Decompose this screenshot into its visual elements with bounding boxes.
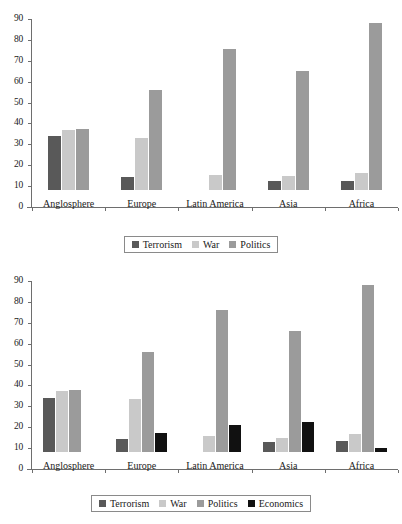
bar-group <box>325 264 398 452</box>
x-tick-mark <box>32 208 33 211</box>
x-axis-labels-top: AnglosphereEuropeLatin AmericaAsiaAfrica <box>32 198 398 210</box>
figure-page: 0102030405060708090 AnglosphereEuropeLat… <box>0 0 402 524</box>
y-tick-label: 70 <box>14 56 23 66</box>
bar-war-africa <box>355 173 368 190</box>
x-axis-labels-bottom: AnglosphereEuropeLatin AmericaAsiaAfrica <box>32 460 398 472</box>
legend-label: War <box>203 239 219 250</box>
bar-group <box>32 264 105 452</box>
bar-politics-europe <box>142 352 154 452</box>
bar-terrorism-africa <box>341 181 354 190</box>
x-tick-label: Africa <box>325 198 398 210</box>
legend-item-terrorism[interactable]: Terrorism <box>132 239 182 250</box>
bar-terrorism-europe <box>121 177 134 190</box>
bar-politics-anglosphere <box>76 129 89 190</box>
plot-area-top: 0102030405060708090 AnglosphereEuropeLat… <box>0 0 402 228</box>
y-tick-label: 80 <box>14 297 23 307</box>
x-tick-mark <box>178 470 179 473</box>
bar-war-europe <box>135 138 148 190</box>
y-tick-label: 80 <box>14 35 23 45</box>
x-tick-label: Asia <box>252 460 325 472</box>
bar-terrorism-asia <box>263 442 275 452</box>
y-tick-label: 60 <box>14 339 23 349</box>
y-tick-label: 40 <box>14 119 23 129</box>
y-tick-label: 50 <box>14 98 23 108</box>
bar-politics-africa <box>369 23 382 190</box>
legend-top: TerrorismWarPolitics <box>0 236 402 253</box>
y-tick-label: 0 <box>18 464 23 474</box>
x-tick-label: Asia <box>252 198 325 210</box>
legend-swatch-icon <box>99 500 106 507</box>
y-tick-label: 20 <box>14 422 23 432</box>
legend-item-terrorism[interactable]: Terrorism <box>99 498 149 509</box>
x-tick-mark <box>252 208 253 211</box>
legend-label: War <box>170 498 186 509</box>
x-tick-label: Africa <box>325 460 398 472</box>
bar-groups-top <box>32 2 398 190</box>
bar-group <box>105 264 178 452</box>
legend-item-politics[interactable]: Politics <box>229 239 270 250</box>
x-tick-mark <box>252 470 253 473</box>
x-tick-label: Latin America <box>178 198 251 210</box>
bars-container-bottom <box>32 264 398 452</box>
x-tick-mark <box>178 208 179 211</box>
plot-area-bottom: 0102030405060708090 AnglosphereEuropeLat… <box>0 262 402 490</box>
legend-item-economics[interactable]: Economics <box>248 498 303 509</box>
bar-terrorism-africa <box>336 441 348 452</box>
legend-item-war[interactable]: War <box>192 239 219 250</box>
bar-politics-europe <box>149 90 162 190</box>
legend-item-politics[interactable]: Politics <box>197 498 238 509</box>
bar-politics-africa <box>362 285 374 452</box>
bar-politics-asia <box>296 71 309 190</box>
y-tick-label: 70 <box>14 318 23 328</box>
bar-politics-latin-america <box>216 310 228 452</box>
y-tick-label: 60 <box>14 77 23 87</box>
bar-war-africa <box>349 434 361 452</box>
bar-economics-asia <box>302 422 314 452</box>
chart-top: 0102030405060708090 AnglosphereEuropeLat… <box>0 0 402 262</box>
bar-economics-europe <box>155 433 167 452</box>
x-tick-mark <box>105 208 106 211</box>
x-tick-mark <box>398 208 399 211</box>
y-tick-label: 90 <box>14 276 23 286</box>
bar-terrorism-europe <box>116 439 128 452</box>
legend-swatch-icon <box>192 241 199 248</box>
x-tick-label: Anglosphere <box>32 198 105 210</box>
chart-bottom: 0102030405060708090 AnglosphereEuropeLat… <box>0 262 402 524</box>
bar-group <box>178 2 251 190</box>
bar-group <box>252 2 325 190</box>
y-tick-label: 10 <box>14 181 23 191</box>
bar-group <box>105 2 178 190</box>
legend-label: Terrorism <box>110 498 149 509</box>
x-tick-label: Anglosphere <box>32 460 105 472</box>
y-axis-top: 0102030405060708090 <box>0 0 28 190</box>
bar-politics-asia <box>289 331 301 452</box>
y-tick-label: 90 <box>14 14 23 24</box>
legend-label: Terrorism <box>143 239 182 250</box>
legend-box: TerrorismWarPoliticsEconomics <box>91 495 311 512</box>
bar-group <box>252 264 325 452</box>
bar-terrorism-anglosphere <box>43 398 55 452</box>
legend-swatch-icon <box>197 500 204 507</box>
y-tick-label: 50 <box>14 360 23 370</box>
bar-group <box>178 264 251 452</box>
y-axis-bottom: 0102030405060708090 <box>0 262 28 452</box>
bar-war-latin-america <box>203 436 215 452</box>
x-tick-mark <box>32 470 33 473</box>
x-tick-mark <box>398 470 399 473</box>
legend-swatch-icon <box>159 500 166 507</box>
legend-bottom: TerrorismWarPoliticsEconomics <box>0 495 402 512</box>
bar-group <box>32 2 105 190</box>
legend-item-war[interactable]: War <box>159 498 186 509</box>
x-tick-label: Europe <box>105 198 178 210</box>
bar-war-anglosphere <box>56 391 68 452</box>
bar-groups-bottom <box>32 264 398 452</box>
x-tick-label: Europe <box>105 460 178 472</box>
x-tick-mark <box>325 470 326 473</box>
legend-label: Economics <box>259 498 303 509</box>
legend-label: Politics <box>208 498 238 509</box>
bar-politics-anglosphere <box>69 390 81 452</box>
y-tick-label: 30 <box>14 140 23 150</box>
x-tick-mark <box>325 208 326 211</box>
bar-war-latin-america <box>209 175 222 190</box>
bar-war-europe <box>129 399 141 452</box>
